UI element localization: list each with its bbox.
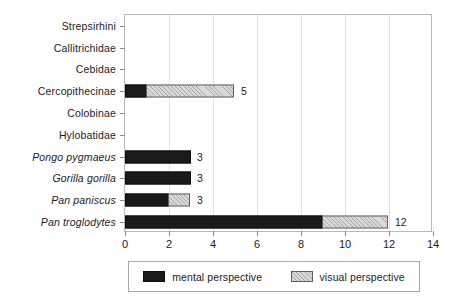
bar-segment-mental-perspective xyxy=(125,194,169,207)
y-axis-label: Pan paniscus xyxy=(51,194,116,206)
y-axis-label: Pan troglodytes xyxy=(41,216,116,228)
bar-segment-visual-perspective xyxy=(168,194,190,207)
solid-black-swatch-icon xyxy=(143,271,165,282)
x-axis-tick xyxy=(301,231,302,236)
x-axis-tick xyxy=(389,231,390,236)
stacked-bar xyxy=(125,194,190,207)
bar-segment-mental-perspective xyxy=(125,85,147,98)
bar-value-label: 12 xyxy=(395,216,407,228)
y-axis-label: Gorilla gorilla xyxy=(52,172,116,184)
x-axis-label: 8 xyxy=(298,238,304,250)
legend-item-mental-perspective: mental perspective xyxy=(143,271,262,283)
chart-legend: mental perspective visual perspective xyxy=(128,261,420,292)
category-row: Hylobatidae xyxy=(125,124,431,146)
hatched-gray-swatch-icon xyxy=(291,271,313,282)
x-axis-label: 14 xyxy=(427,238,439,250)
y-axis-tick xyxy=(120,69,125,70)
y-axis-label: Callitrichidae xyxy=(54,42,116,54)
bar-segment-mental-perspective xyxy=(125,216,323,229)
x-axis-tick xyxy=(433,231,434,236)
y-axis-label: Pongo pygmaeus xyxy=(32,151,116,163)
x-axis-label: 6 xyxy=(254,238,260,250)
y-axis-label: Cercopithecinae xyxy=(38,85,116,97)
x-axis-tick xyxy=(345,231,346,236)
category-row: Callitrichidae xyxy=(125,37,431,59)
y-axis-label: Cebidae xyxy=(76,63,116,75)
x-axis-label: 4 xyxy=(210,238,216,250)
bar-segment-visual-perspective xyxy=(146,85,234,98)
category-row: Colobinae xyxy=(125,102,431,124)
category-row: Cercopithecinae5 xyxy=(125,80,431,102)
bar-segment-visual-perspective xyxy=(322,216,388,229)
bar-value-label: 5 xyxy=(241,85,247,97)
stacked-bar xyxy=(125,216,388,229)
legend-label: mental perspective xyxy=(172,271,262,283)
y-axis-label: Colobinae xyxy=(67,107,116,119)
bar-chart: StrepsirhiniCallitrichidaeCebidaeCercopi… xyxy=(0,0,453,306)
x-axis-tick xyxy=(257,231,258,236)
y-axis-tick xyxy=(120,48,125,49)
category-row: Gorilla gorilla3 xyxy=(125,168,431,190)
x-axis-tick xyxy=(169,231,170,236)
bar-segment-mental-perspective xyxy=(125,172,191,185)
stacked-bar xyxy=(125,172,191,185)
bar-value-label: 3 xyxy=(197,172,203,184)
category-row: Strepsirhini xyxy=(125,15,431,37)
y-axis-label: Hylobatidae xyxy=(59,129,116,141)
y-axis-label: Strepsirhini xyxy=(62,20,116,32)
stacked-bar xyxy=(125,85,234,98)
category-row: Cebidae xyxy=(125,59,431,81)
x-axis-label: 12 xyxy=(383,238,395,250)
bar-segment-mental-perspective xyxy=(125,150,191,163)
legend-item-visual-perspective: visual perspective xyxy=(291,271,405,283)
plot-area: StrepsirhiniCallitrichidaeCebidaeCercopi… xyxy=(124,14,432,232)
bar-value-label: 3 xyxy=(197,194,203,206)
x-axis-label: 2 xyxy=(166,238,172,250)
legend-label: visual perspective xyxy=(320,271,405,283)
y-axis-tick xyxy=(120,135,125,136)
bar-value-label: 3 xyxy=(197,151,203,163)
x-axis-tick xyxy=(213,231,214,236)
y-axis-tick xyxy=(120,26,125,27)
stacked-bar xyxy=(125,150,191,163)
x-axis-label: 10 xyxy=(339,238,351,250)
category-row: Pongo pygmaeus3 xyxy=(125,146,431,168)
y-axis-tick xyxy=(120,113,125,114)
category-row: Pan paniscus3 xyxy=(125,189,431,211)
x-axis-tick xyxy=(125,231,126,236)
category-row: Pan troglodytes12 xyxy=(125,211,431,233)
x-axis-label: 0 xyxy=(122,238,128,250)
